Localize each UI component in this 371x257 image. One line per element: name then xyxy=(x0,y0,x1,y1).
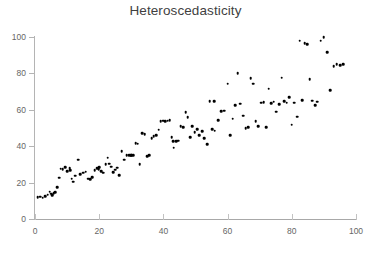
data-point xyxy=(203,137,206,140)
data-point xyxy=(59,167,62,170)
data-point xyxy=(296,115,299,118)
data-point xyxy=(335,63,338,66)
data-point xyxy=(77,158,80,161)
data-point xyxy=(208,100,211,103)
data-point xyxy=(91,176,94,179)
data-point xyxy=(275,110,278,113)
chart-title: Heteroscedasticity xyxy=(0,3,371,18)
y-tick-label-60: 60 xyxy=(17,106,26,115)
data-point xyxy=(72,180,75,183)
data-point xyxy=(262,101,265,104)
data-point xyxy=(118,174,121,177)
data-point xyxy=(213,129,216,132)
data-point xyxy=(58,176,61,179)
data-point xyxy=(308,78,311,81)
data-point xyxy=(242,114,245,117)
x-tick-100 xyxy=(356,214,357,220)
data-point xyxy=(267,87,270,90)
data-point xyxy=(314,104,317,107)
data-point xyxy=(339,64,342,67)
data-point xyxy=(130,154,133,157)
data-point xyxy=(226,82,229,85)
data-point xyxy=(234,104,237,107)
data-point xyxy=(229,134,232,137)
data-point xyxy=(206,143,209,146)
data-point xyxy=(288,96,291,99)
x-tick-label-80: 80 xyxy=(279,227,305,236)
x-tick-label-20: 20 xyxy=(86,227,112,236)
y-tick-label-100: 100 xyxy=(12,33,26,42)
data-point xyxy=(191,125,194,128)
data-point xyxy=(252,82,255,85)
x-tick-label-0: 0 xyxy=(22,227,48,236)
data-point xyxy=(311,99,314,102)
data-point xyxy=(69,169,72,172)
plot-area xyxy=(35,37,356,219)
data-point xyxy=(169,119,172,122)
y-tick-label-40: 40 xyxy=(17,142,26,151)
data-point xyxy=(97,168,100,171)
data-point xyxy=(247,126,250,129)
data-point xyxy=(172,146,175,149)
data-point xyxy=(123,158,126,161)
data-point xyxy=(332,65,335,68)
data-point xyxy=(189,136,192,139)
data-point xyxy=(56,186,59,189)
data-point xyxy=(223,110,226,113)
data-point xyxy=(306,43,309,46)
data-point xyxy=(342,63,345,66)
data-point xyxy=(201,130,204,133)
data-point xyxy=(172,140,175,143)
data-point xyxy=(54,191,57,194)
data-point xyxy=(138,163,141,166)
data-point xyxy=(157,129,160,132)
data-point xyxy=(249,77,252,80)
data-point xyxy=(298,39,301,42)
data-point xyxy=(301,99,304,102)
data-point xyxy=(182,126,185,129)
data-point xyxy=(326,51,329,54)
data-point xyxy=(198,134,201,137)
y-tick-label-80: 80 xyxy=(17,69,26,78)
data-point xyxy=(285,101,288,104)
scatter-chart: Heteroscedasticity 020406080100 02040608… xyxy=(0,0,371,257)
data-point xyxy=(106,157,109,160)
data-point xyxy=(64,166,67,169)
data-point xyxy=(116,166,119,169)
data-point xyxy=(316,100,319,103)
data-point xyxy=(196,128,199,131)
data-point xyxy=(102,171,105,174)
data-point xyxy=(194,131,197,134)
data-point xyxy=(255,120,258,123)
data-point xyxy=(148,154,151,157)
data-point xyxy=(237,72,240,75)
data-point xyxy=(84,170,87,173)
data-point xyxy=(177,139,180,142)
data-point xyxy=(110,165,113,168)
data-point xyxy=(213,100,216,103)
data-point xyxy=(273,100,276,103)
data-point xyxy=(239,102,242,105)
data-point xyxy=(155,134,158,137)
x-axis-line xyxy=(34,219,357,220)
data-point xyxy=(143,133,146,136)
data-point xyxy=(319,39,322,42)
x-tick-label-100: 100 xyxy=(343,227,369,236)
data-point xyxy=(136,142,139,145)
x-tick-label-40: 40 xyxy=(150,227,176,236)
data-point xyxy=(220,110,223,113)
data-point xyxy=(74,174,77,177)
data-point xyxy=(293,101,296,104)
data-point xyxy=(278,103,281,106)
data-point xyxy=(170,136,173,139)
x-tick-label-60: 60 xyxy=(215,227,241,236)
data-point xyxy=(231,118,234,121)
data-point xyxy=(280,76,283,79)
data-point xyxy=(329,89,332,92)
data-point xyxy=(265,126,268,129)
data-point xyxy=(104,163,107,166)
data-point xyxy=(184,111,187,114)
y-tick-label-0: 0 xyxy=(21,215,26,224)
data-point xyxy=(323,36,326,39)
data-point xyxy=(257,125,260,128)
